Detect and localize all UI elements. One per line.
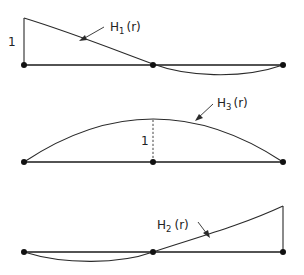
panel-h3: 1 H3(r) [21, 96, 286, 165]
panel-h1: 1 H1(r) [8, 18, 286, 75]
node-middle [150, 159, 156, 165]
node-left [21, 62, 27, 68]
node-left [21, 249, 27, 255]
h1-label: H1(r) [110, 20, 141, 36]
arrowhead-icon [203, 230, 210, 238]
arrowhead-icon [79, 35, 87, 41]
h2-label: H2(r) [157, 218, 189, 234]
node-middle [150, 249, 156, 255]
node-right [280, 159, 286, 165]
node-right [280, 249, 286, 255]
unit-label: 1 [141, 134, 149, 148]
h3-label: H3(r) [217, 96, 248, 112]
node-right [280, 62, 286, 68]
node-middle [150, 62, 156, 68]
h1-pointer-arrow [83, 27, 104, 39]
panel-h2: H2(r) [21, 206, 286, 261]
unit-label: 1 [8, 35, 16, 49]
shape-function-diagram: 1 H1(r) 1 H3(r) H2(r) [0, 0, 304, 275]
node-left [21, 159, 27, 165]
